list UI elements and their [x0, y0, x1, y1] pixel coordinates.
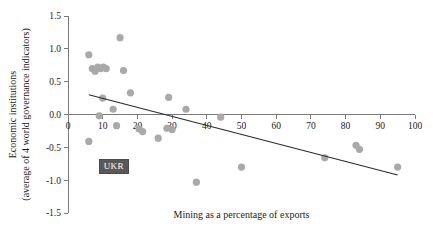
scatter-plot: 1.51.00.50.0-0.5-1.0-1.5 010203040506070…: [0, 0, 433, 234]
data-point: [169, 126, 176, 133]
chart-figure: 1.51.00.50.0-0.5-1.0-1.5 010203040506070…: [0, 0, 433, 234]
x-tick-label: 70: [306, 121, 316, 131]
y-tick-label: 0.0: [49, 110, 61, 120]
y-tick-label: -1.0: [46, 176, 61, 186]
x-tick-label: 10: [98, 121, 108, 131]
x-tick-label: 0: [66, 121, 71, 131]
y-axis-title-line1: Economic institutions: [7, 71, 18, 159]
x-tick-label: 100: [408, 121, 423, 131]
y-tick-label: -0.5: [46, 143, 61, 153]
data-point: [165, 94, 172, 101]
data-point: [217, 114, 224, 121]
data-point: [127, 89, 134, 96]
data-point: [96, 112, 103, 119]
data-point: [155, 135, 162, 142]
data-point: [193, 179, 200, 186]
data-point: [113, 122, 120, 129]
data-point: [394, 163, 401, 170]
trendline-layer: [89, 95, 398, 175]
data-point: [238, 163, 245, 170]
data-point: [182, 106, 189, 113]
trend-line: [89, 95, 398, 175]
data-point: [110, 106, 117, 113]
data-point: [103, 65, 110, 72]
x-axis-title: Mining as a percentage of exports: [174, 209, 310, 220]
y-tick-label: -1.5: [46, 208, 61, 218]
x-tick-label: 80: [341, 121, 351, 131]
x-tick-label: 60: [271, 121, 281, 131]
y-axis-title-line2: (average of 4 world governance indicator…: [20, 28, 32, 200]
x-tick-label: 90: [376, 121, 386, 131]
x-tick-label: 50: [237, 121, 247, 131]
data-point: [85, 51, 92, 58]
axis-titles-layer: Mining as a percentage of exportsEconomi…: [7, 28, 309, 220]
y-axis: 1.51.00.50.0-0.5-1.0-1.5: [46, 11, 68, 218]
y-tick-label: 0.5: [49, 77, 61, 87]
y-tick-label: 1.0: [49, 44, 61, 54]
y-tick-label: 1.5: [49, 11, 61, 21]
data-point: [139, 128, 146, 135]
data-point: [116, 34, 123, 41]
data-point: [85, 138, 92, 145]
data-point: [356, 146, 363, 153]
annotation-badge-ukr: UKR: [99, 159, 129, 174]
data-point: [120, 67, 127, 74]
